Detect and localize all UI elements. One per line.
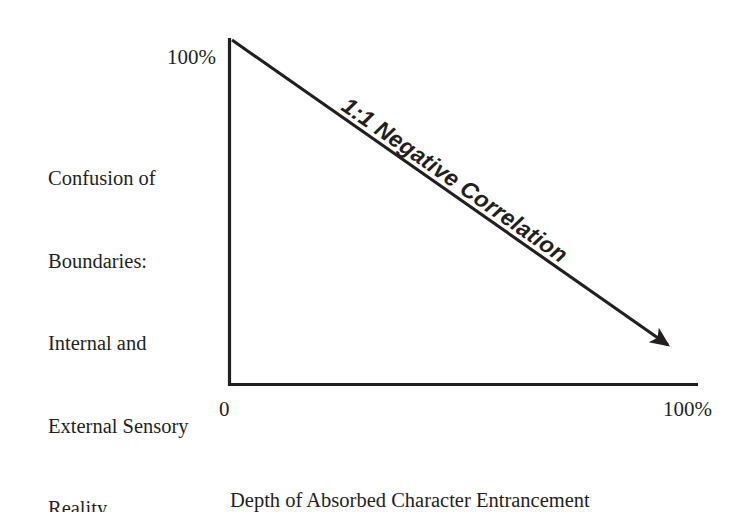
y-axis-tick-label-top: 100% <box>98 44 216 70</box>
y-axis-title-line: Boundaries: <box>48 248 226 276</box>
y-axis-title-line: Reality <box>48 495 226 512</box>
chart-figure: 100% Confusion of Boundaries: Internal a… <box>0 0 742 512</box>
y-axis-title-line: Confusion of <box>48 165 226 193</box>
y-axis-title: Confusion of Boundaries: Internal and Ex… <box>48 110 226 512</box>
x-axis-title: Depth of Absorbed Character Entrancement… <box>230 430 700 512</box>
x-axis-title-line: Depth of Absorbed Character Entrancement <box>230 486 700 512</box>
x-axis-tick-label-left: 0 <box>219 396 230 422</box>
y-axis-title-line: Internal and <box>48 330 226 358</box>
x-axis-tick-label-right: 100% <box>592 396 712 422</box>
y-axis-title-line: External Sensory <box>48 413 226 441</box>
